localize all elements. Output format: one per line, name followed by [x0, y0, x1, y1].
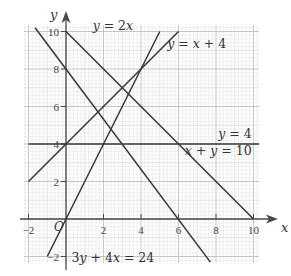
x-tick-label: 6	[176, 224, 182, 236]
y-tick-label: 10	[48, 26, 60, 38]
x-tick-label: 8	[213, 224, 219, 236]
x-axis-label: x	[281, 220, 289, 235]
x-tick-label: 4	[138, 224, 144, 236]
line-label: 3y + 4x = 24	[71, 250, 154, 265]
line-label: x + y = 10	[185, 143, 252, 158]
line-label: y = 2x	[92, 18, 134, 33]
line-labels: y = 2xy = x + 4y = 4x + y = 103y + 4x = …	[71, 18, 251, 266]
line-label: y = 4	[217, 126, 251, 141]
y-axis-label: y	[49, 7, 58, 22]
linear-graphs-chart: x y O −2246810−2246810 y = 2xy = x + 4y …	[0, 0, 291, 276]
y-tick-label: 2	[54, 176, 60, 188]
y-tick-label: 8	[54, 63, 60, 75]
x-tick-label: 10	[248, 224, 260, 236]
x-tick-label: −2	[23, 224, 35, 236]
line-label: y = x + 4	[166, 36, 226, 51]
x-tick-label: 2	[101, 224, 107, 236]
y-tick-label: 6	[54, 101, 60, 113]
